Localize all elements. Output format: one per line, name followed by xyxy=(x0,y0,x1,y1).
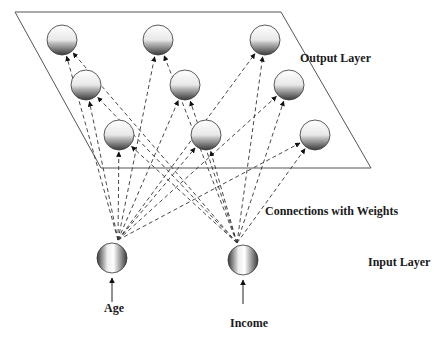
connection-income-to-output-3-2 xyxy=(211,151,237,243)
output-layer-label: Output Layer xyxy=(300,51,371,66)
output-node-2-1 xyxy=(71,70,101,100)
output-node-1-3 xyxy=(250,25,280,55)
network-diagram xyxy=(0,0,437,338)
connection-income-to-output-3-3 xyxy=(237,149,305,243)
output-node-2-2 xyxy=(170,70,200,100)
connection-age-to-output-3-1 xyxy=(118,152,119,240)
input-nodes-group xyxy=(97,243,258,304)
input-label-age: Age xyxy=(104,301,124,316)
input-label-income: Income xyxy=(230,316,268,331)
output-node-3-1 xyxy=(104,120,134,150)
output-node-2-3 xyxy=(274,70,304,100)
input-layer-label: Input Layer xyxy=(368,255,430,270)
output-node-3-3 xyxy=(300,120,330,150)
output-node-1-1 xyxy=(47,25,77,55)
connection-income-to-output-1-3 xyxy=(237,57,263,243)
connection-income-to-output-2-3 xyxy=(237,101,284,243)
input-node-age xyxy=(97,243,127,273)
output-nodes-group xyxy=(47,25,330,150)
connections-label: Connections with Weights xyxy=(265,204,398,219)
connection-income-to-output-2-1 xyxy=(98,97,237,243)
output-node-1-2 xyxy=(143,25,173,55)
output-node-3-2 xyxy=(191,120,221,150)
input-node-income xyxy=(228,245,258,275)
